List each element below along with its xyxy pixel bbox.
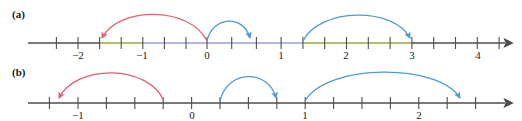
- panel-b-tick-label-2: 2: [416, 109, 422, 121]
- panel-b-tick-label-1: 1: [302, 109, 308, 121]
- panel-b: (b): [0, 60, 522, 121]
- panel-a-red-arc: [102, 14, 207, 41]
- panel-a-numberline: −2 −1 0 1 2 3 4: [0, 0, 522, 61]
- panel-b-numberline: −1 0 1 2: [0, 60, 522, 121]
- panel-b-red-arc: [59, 73, 164, 101]
- panel-a-blue-arc-large: [303, 15, 410, 41]
- panel-b-blue-arc-second: [305, 72, 460, 101]
- panel-b-tick-label-0: 0: [189, 109, 195, 121]
- panel-a-blue-arc-small: [207, 21, 250, 41]
- panel-a: (a): [0, 0, 522, 61]
- number-line-figure: (a): [0, 0, 522, 121]
- panel-b-tick-label--1: −1: [72, 109, 84, 121]
